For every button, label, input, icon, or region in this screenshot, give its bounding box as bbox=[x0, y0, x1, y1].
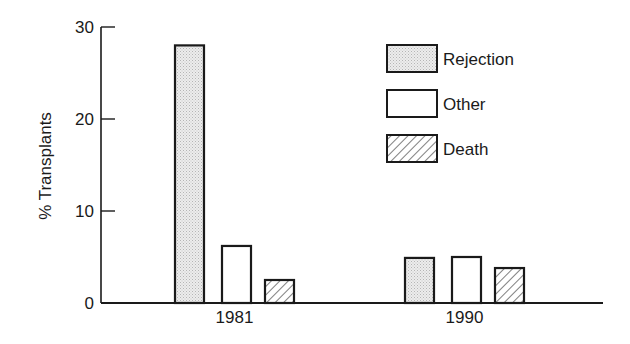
bars bbox=[175, 45, 524, 303]
y-tick-label: 30 bbox=[75, 18, 94, 37]
x-category-label: 1990 bbox=[446, 308, 484, 327]
bar-rejection-1990 bbox=[405, 258, 434, 303]
bar-rejection-1981 bbox=[175, 45, 204, 303]
y-axis-title: % Transplants bbox=[36, 112, 55, 220]
bar-death-1990 bbox=[495, 268, 524, 303]
y-axis: 0102030 bbox=[75, 18, 115, 313]
y-tick-label: 0 bbox=[85, 294, 94, 313]
x-category-label: 1981 bbox=[216, 308, 254, 327]
legend: RejectionOtherDeath bbox=[387, 45, 514, 162]
y-tick-label: 10 bbox=[75, 202, 94, 221]
legend-label-other: Other bbox=[443, 95, 486, 114]
y-tick-label: 20 bbox=[75, 110, 94, 129]
legend-swatch-death bbox=[387, 135, 437, 162]
legend-label-death: Death bbox=[443, 140, 488, 159]
legend-swatch-other bbox=[387, 90, 437, 117]
legend-swatch-rejection bbox=[387, 45, 437, 72]
bar-other-1981 bbox=[222, 246, 251, 303]
category-labels: 19811990 bbox=[216, 308, 484, 327]
legend-label-rejection: Rejection bbox=[443, 50, 514, 69]
bar-other-1990 bbox=[452, 257, 481, 303]
bar-death-1981 bbox=[265, 280, 294, 303]
bar-chart: 0102030 19811990 RejectionOtherDeath % T… bbox=[0, 0, 630, 344]
